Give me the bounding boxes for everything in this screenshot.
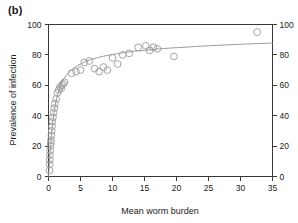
data-points-group: [46, 29, 260, 174]
data-point: [171, 53, 178, 60]
y-tick-label-left: 100: [27, 20, 41, 30]
x-axis-title: Mean worm burden: [121, 206, 199, 216]
y-axis-left-ticks: 020406080100: [27, 20, 48, 182]
y-tick-label-right: 0: [280, 172, 285, 182]
x-tick-label: 25: [204, 183, 214, 193]
y-tick-label-left: 60: [32, 80, 42, 90]
data-point: [135, 44, 142, 51]
data-point: [73, 68, 80, 75]
y-tick-label-right: 60: [280, 80, 290, 90]
x-tick-label: 30: [236, 183, 246, 193]
y-tick-label-right: 20: [280, 141, 290, 151]
data-point: [254, 29, 261, 36]
y-tick-label-left: 0: [37, 172, 42, 182]
y-tick-label-right: 40: [280, 111, 290, 121]
data-point: [68, 70, 75, 77]
x-tick-label: 15: [140, 183, 150, 193]
x-tick-label: 0: [46, 183, 51, 193]
fitted-curve-group: [49, 43, 273, 176]
y-tick-label-right: 100: [280, 20, 294, 30]
x-tick-label: 5: [78, 183, 83, 193]
scatter-plot: 05101520253035 020406080100 020406080100…: [0, 0, 298, 223]
y-axis-right-ticks: 020406080100: [273, 20, 294, 182]
x-tick-label: 20: [172, 183, 182, 193]
data-point: [109, 55, 116, 62]
data-point: [126, 50, 133, 57]
data-point: [142, 42, 149, 49]
y-tick-label-left: 20: [32, 141, 42, 151]
x-tick-label: 35: [268, 183, 278, 193]
y-tick-label-left: 80: [32, 50, 42, 60]
x-tick-label: 10: [108, 183, 118, 193]
fitted-curve: [49, 43, 273, 176]
data-point: [114, 61, 121, 68]
y-axis-title: Prevalence of infection: [8, 54, 18, 145]
figure-panel-b: (b) 05101520253035 020406080100 02040608…: [0, 0, 298, 223]
y-tick-label-left: 40: [32, 111, 42, 121]
data-point: [77, 67, 84, 74]
x-axis-ticks: 05101520253035: [46, 177, 277, 193]
y-tick-label-right: 80: [280, 50, 290, 60]
